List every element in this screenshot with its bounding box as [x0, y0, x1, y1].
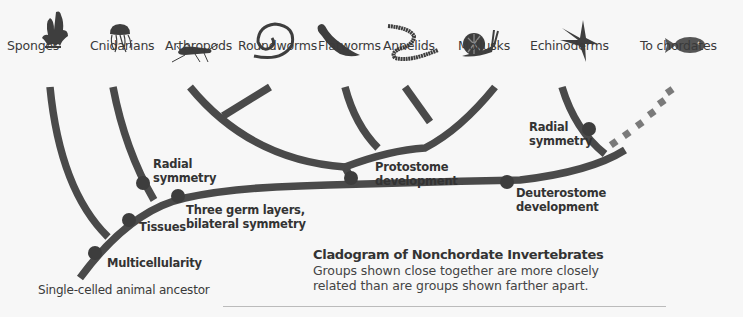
taxon-label-mollusks: Mollusks [458, 38, 510, 53]
trait-label-line: development [516, 200, 606, 214]
taxon-label-roundworms: Roundworms [238, 38, 317, 53]
trait-label-line: Radial [153, 157, 216, 171]
node-deuterostome [500, 175, 514, 189]
taxon-label-to-chordates: To chordates [640, 38, 717, 53]
trait-label-line: symmetry [153, 171, 216, 185]
root-ancestor-label: Single-celled animal ancestor [38, 283, 210, 297]
trait-label-line: bilateral symmetry [186, 217, 306, 231]
node-multicellularity [88, 246, 102, 260]
trait-label-line: Three germ layers, [186, 203, 306, 217]
divider-rule [223, 306, 666, 307]
node-tissues [122, 213, 136, 227]
branch-roundworms [223, 87, 270, 116]
taxon-label-annelids: Annelids [383, 38, 435, 53]
figure-caption: Cladogram of Nonchordate Invertebrates G… [313, 247, 643, 293]
node-three-germ-layers [171, 189, 185, 203]
trait-label-line: Protostome [375, 160, 458, 174]
trait-label-radial-symmetry-echinoderms: Radial symmetry [529, 120, 592, 148]
taxon-label-cnidarians: Cnidarians [90, 38, 154, 53]
branch-to-chordates-dashed [609, 86, 675, 148]
trait-label-line: Radial [529, 120, 592, 134]
cladogram-figure: Sponges Cnidarians Arthropods Roundworms… [0, 0, 743, 317]
taxon-label-flatworms: Flatworms [318, 38, 381, 53]
trait-label-line: symmetry [529, 134, 592, 148]
trait-label-line: Deuterostome [516, 186, 606, 200]
node-radial-symmetry-cnidarians [136, 176, 150, 190]
branch-protostome-right [345, 87, 495, 167]
branch-sponges [50, 87, 108, 237]
trait-label-radial-symmetry-cnidarians: Radial symmetry [153, 157, 216, 185]
branch-arthropods [190, 87, 345, 167]
trait-label-line: development [375, 174, 458, 188]
trait-label-tissues: Tissues [139, 220, 186, 234]
trait-label-protostome: Protostome development [375, 160, 458, 188]
node-protostome [344, 171, 358, 185]
trait-label-three-germ-layers: Three germ layers, bilateral symmetry [186, 203, 306, 231]
caption-title: Cladogram of Nonchordate Invertebrates [313, 247, 643, 263]
taxon-label-echinoderms: Echinoderms [530, 38, 609, 53]
trait-label-deuterostome: Deuterostome development [516, 186, 606, 214]
branch-annelids [405, 87, 430, 122]
taxon-label-sponges: Sponges [7, 38, 59, 53]
taxon-label-arthropods: Arthropods [165, 38, 232, 53]
branch-flatworms [345, 87, 378, 148]
trait-label-multicellularity: Multicellularity [107, 256, 202, 270]
caption-description: Groups shown close together are more clo… [313, 263, 643, 293]
